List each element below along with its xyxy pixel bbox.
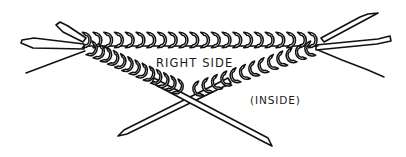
left-needle-tip-upper — [56, 22, 86, 42]
label-inside: (INSIDE) — [250, 94, 301, 106]
knitting-diagram-illustration: RIGHT SIDE (INSIDE) — [0, 0, 406, 157]
label-right-side: RIGHT SIDE — [156, 56, 233, 70]
left-needle-cord — [26, 51, 85, 73]
knitting-diagram-figure: RIGHT SIDE (INSIDE) — [0, 0, 406, 157]
right-needle-cord — [318, 50, 384, 77]
right-needle-tip-upper — [321, 13, 378, 42]
left-needle-tip-lower — [21, 38, 84, 49]
